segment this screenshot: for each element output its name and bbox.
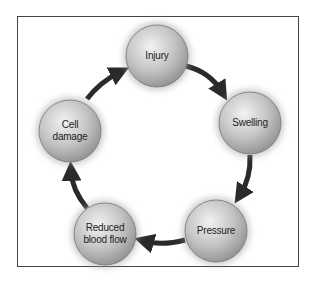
label-pressure: Pressure (181, 225, 251, 237)
arrow-swelling-to-pressure (240, 155, 250, 195)
label-line: Cell (35, 119, 105, 131)
label-reduced-blood-flow: Reduced blood flow (70, 222, 140, 246)
arrow-cell-to-injury (87, 72, 120, 99)
arrow-injury-to-swelling (186, 66, 222, 92)
label-injury: Injury (122, 50, 192, 62)
label-line: blood flow (70, 234, 140, 246)
label-line: Reduced (70, 222, 140, 234)
arrow-pressure-to-reduced (144, 240, 185, 243)
arrow-reduced-to-cell (71, 171, 87, 208)
label-line: damage (35, 131, 105, 143)
label-cell-damage: Cell damage (35, 119, 105, 143)
label-swelling: Swelling (215, 117, 285, 129)
